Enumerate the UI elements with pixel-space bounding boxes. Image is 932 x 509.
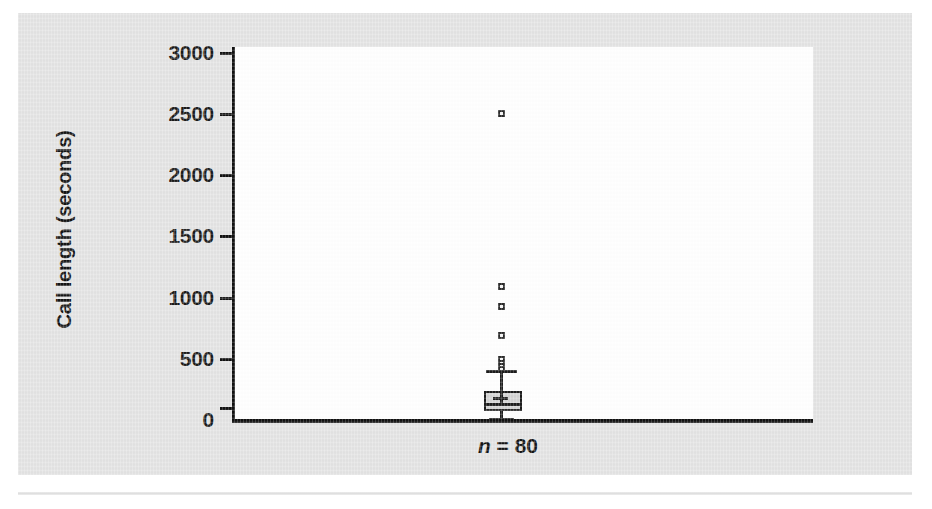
outlier-point: [498, 332, 505, 339]
outlier-point: [498, 283, 505, 290]
y-tick-label-500: 500: [180, 347, 214, 371]
y-axis-tick-labels: 3000 2500 2000 1500 1000 500 0: [118, 13, 214, 473]
y-tick-label-2000: 2000: [168, 163, 214, 187]
outlier-point: [498, 303, 505, 310]
figure-root: 3000 2500 2000 1500 1000 500 0 Call leng…: [0, 0, 932, 509]
median-line: [484, 403, 522, 406]
bottom-divider-rule: [18, 492, 912, 495]
x-axis-caption-value: = 80: [497, 434, 538, 457]
plot-area: [234, 47, 813, 421]
x-axis-caption-symbol: n: [478, 434, 491, 457]
x-axis-caption: n = 80: [418, 434, 598, 458]
outlier-point: [498, 110, 505, 117]
whisker-line-upper: [500, 370, 503, 392]
box-iqr: [484, 391, 522, 411]
y-tick-label-2500: 2500: [168, 102, 214, 126]
y-tick-label-1500: 1500: [168, 224, 214, 248]
y-axis-title: Call length (seconds): [53, 100, 76, 360]
y-tick-label-1000: 1000: [168, 286, 214, 310]
mean-marker-vertical: [500, 391, 503, 405]
y-axis-line: [232, 47, 235, 422]
y-tick-label-3000: 3000: [168, 41, 214, 65]
y-tick-label-0: 0: [203, 408, 214, 432]
x-axis-line: [232, 419, 813, 423]
figure-panel: 3000 2500 2000 1500 1000 500 0 Call leng…: [18, 13, 912, 475]
